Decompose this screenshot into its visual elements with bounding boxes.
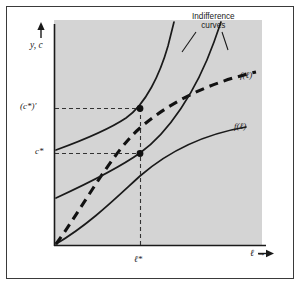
- curve-label-production-new: f(ℓ)′: [240, 71, 254, 80]
- x-axis-label: ℓ →: [250, 249, 266, 259]
- plot-background: [54, 20, 262, 246]
- annotation-indifference-curves: Indifference curves: [192, 12, 235, 31]
- y-tick-label-cstar: c*: [35, 147, 44, 156]
- curve-label-production-old: f(ℓ): [234, 122, 246, 131]
- figure-root: Indifference curves y, c ℓ → f(ℓ)′ f(ℓ) …: [0, 0, 302, 287]
- y-tick-label-cstar-prime: (c*)′: [20, 102, 36, 111]
- annotation-indifference-line2: curves: [192, 21, 235, 30]
- annotation-indifference-line1: Indifference: [192, 12, 235, 21]
- x-axis-arrow-icon: [266, 250, 274, 257]
- plot-canvas: [0, 0, 302, 287]
- point-equilibrium-old: [137, 150, 144, 157]
- x-tick-label-lstar: ℓ*: [134, 255, 142, 264]
- point-equilibrium-new: [137, 105, 144, 112]
- y-axis-label: y, c: [30, 41, 43, 51]
